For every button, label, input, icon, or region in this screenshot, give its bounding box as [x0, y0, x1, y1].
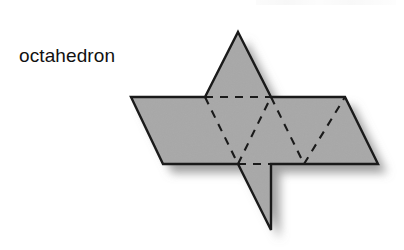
- shape-label: octahedron: [19, 45, 115, 67]
- octahedron-net-drawing: [0, 0, 404, 250]
- octahedron-net-figure: octahedron: [0, 0, 404, 250]
